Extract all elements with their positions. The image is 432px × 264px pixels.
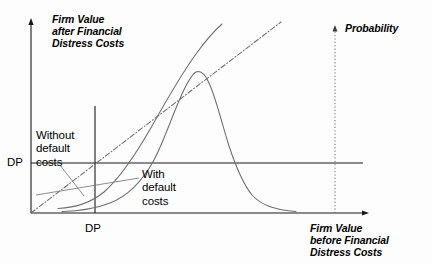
y-axis-label: Firm Value after Financial Distress Cost… <box>52 13 124 50</box>
y-axis <box>28 18 33 213</box>
probability-axis-line <box>333 25 338 213</box>
x-axis-label: Firm Value before Financial Distress Cos… <box>310 222 389 259</box>
annotation-with-default-costs: With default costs <box>142 168 176 208</box>
series-probability-density <box>62 71 296 211</box>
x-axis <box>31 210 369 215</box>
dp-label-x-axis: DP <box>85 222 101 235</box>
leader-line-with-default-costs <box>36 178 139 195</box>
annotation-without-default-costs: Without default costs <box>36 129 74 169</box>
firm-value-distress-costs-chart: Firm Value after Financial Distress Cost… <box>0 0 432 264</box>
probability-axis-label: Probability <box>345 22 398 34</box>
leader-line-without-default-costs <box>60 165 84 196</box>
dp-label-y-axis: DP <box>7 156 23 169</box>
